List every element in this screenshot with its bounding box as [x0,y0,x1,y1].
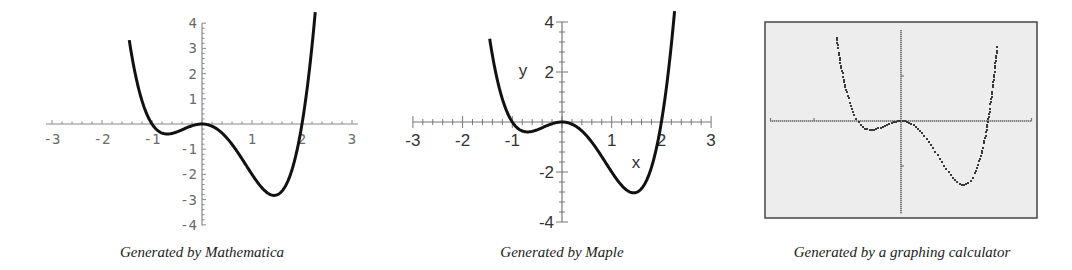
mathematica-plot: -3-2-11234321-1-2-3-4 [0,0,370,270]
y-tick-label: 2 [545,63,554,82]
x-tick-label: -3 [44,131,61,147]
mathematica-chart: -3-2-11234321-1-2-3-4 [0,0,370,240]
x-axis-label: x [632,153,641,172]
x-tick-label: -1 [144,131,161,147]
x-tick-label: -2 [455,131,470,150]
x-tick-label: 3 [706,131,715,150]
y-tick-label: 4 [545,13,554,32]
maple-plot: -3-2-112342-2-4yx [380,0,740,270]
function-curve [129,12,315,195]
function-curve [490,11,675,193]
caption-maple: Generated by Maple [500,244,623,261]
y-axis-label: y [519,61,528,80]
y-tick-label: 2 [189,66,197,82]
x-tick-label: -2 [94,131,111,147]
y-tick-label: -3 [180,192,197,208]
y-tick-label: 3 [189,40,197,56]
x-tick-label: -3 [405,131,420,150]
caption-mathematica: Generated by Mathematica [120,244,284,261]
y-tick-label: -1 [180,141,197,157]
x-tick-label: 1 [607,131,616,150]
y-tick-label: -2 [180,166,197,182]
x-tick-label: 1 [248,131,256,147]
calculator-screen [750,0,1072,240]
y-tick-label: -4 [539,213,554,232]
y-tick-label: 4 [189,15,197,31]
maple-chart: -3-2-112342-2-4yx [380,0,740,240]
calculator-plot [750,0,1072,270]
x-tick-label: -1 [505,131,520,150]
y-tick-label: -2 [539,163,554,182]
y-tick-label: 1 [189,91,197,107]
caption-calculator: Generated by a graphing calculator [794,244,1011,261]
y-tick-label: -4 [180,217,197,233]
x-tick-label: 3 [348,131,356,147]
